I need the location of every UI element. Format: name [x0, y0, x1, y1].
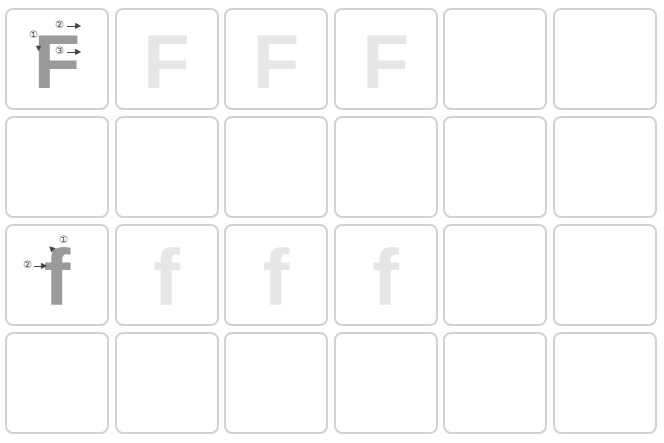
trace-cell[interactable]: f [334, 224, 438, 326]
blank-cell[interactable] [224, 332, 328, 434]
handwriting-grid: F ① ▼ ② ▶ ③ ▶ F F F f ① ▶ ② ▶ f f f [5, 8, 657, 434]
blank-cell[interactable] [5, 116, 109, 218]
blank-cell[interactable] [553, 332, 657, 434]
trace-cell[interactable]: F [224, 8, 328, 110]
stroke-number-1: ① [59, 235, 68, 245]
stroke-number-2: ② [23, 260, 32, 270]
trace-letter: f [226, 238, 326, 318]
trace-letter: f [117, 238, 217, 318]
stroke-number-3: ③ [55, 46, 64, 56]
arrow-right-icon: ▶ [75, 48, 81, 56]
blank-cell[interactable] [115, 332, 219, 434]
trace-letter: F [336, 24, 436, 100]
model-cell-lowercase-f: f ① ▶ ② ▶ [5, 224, 109, 326]
blank-cell[interactable] [553, 116, 657, 218]
blank-cell[interactable] [443, 224, 547, 326]
trace-cell[interactable]: f [115, 224, 219, 326]
trace-cell[interactable]: F [334, 8, 438, 110]
blank-cell[interactable] [5, 332, 109, 434]
trace-letter: f [336, 238, 436, 318]
blank-cell[interactable] [224, 116, 328, 218]
blank-cell[interactable] [553, 224, 657, 326]
stroke-number-2: ② [55, 20, 64, 30]
stroke-number-1: ① [29, 30, 38, 40]
model-letter: f [7, 238, 107, 318]
blank-cell[interactable] [115, 116, 219, 218]
blank-cell[interactable] [334, 332, 438, 434]
arrow-down-icon: ▼ [34, 44, 43, 53]
blank-cell[interactable] [443, 332, 547, 434]
arrow-right-icon: ▶ [41, 262, 47, 270]
trace-cell[interactable]: f [224, 224, 328, 326]
arrow-right-icon: ▶ [75, 22, 81, 30]
trace-letter: F [117, 24, 217, 100]
model-letter: F [7, 24, 107, 100]
blank-cell[interactable] [443, 8, 547, 110]
blank-cell[interactable] [553, 8, 657, 110]
trace-cell[interactable]: F [115, 8, 219, 110]
model-cell-uppercase-f: F ① ▼ ② ▶ ③ ▶ [5, 8, 109, 110]
blank-cell[interactable] [443, 116, 547, 218]
trace-letter: F [226, 24, 326, 100]
blank-cell[interactable] [334, 116, 438, 218]
